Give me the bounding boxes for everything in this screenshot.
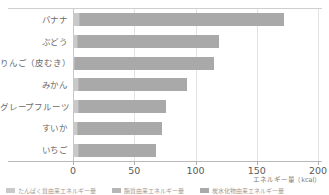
- legend-label: 脂質由来エネルギー量: [124, 187, 184, 194]
- bar-segment: [78, 35, 219, 48]
- legend-label: 炭水化物由来エネルギー量: [212, 187, 284, 194]
- category-label: ぶどう: [0, 37, 68, 47]
- tick-label: 50: [128, 165, 140, 177]
- stacked-bar[interactable]: [73, 78, 187, 91]
- bar-row[interactable]: いちご: [0, 139, 329, 161]
- category-label: みかん: [0, 80, 68, 90]
- bar-row[interactable]: すいか: [0, 118, 329, 140]
- stacked-bar[interactable]: [73, 57, 214, 70]
- stacked-bar[interactable]: [73, 35, 219, 48]
- stacked-bar[interactable]: [73, 13, 284, 26]
- stacked-bar[interactable]: [73, 122, 162, 135]
- bar-segment: [78, 122, 163, 135]
- horizontal-bar-chart: バナナぶどうりんご（皮むき）みかんグレープフルーツすいかいちご 05010015…: [0, 0, 329, 195]
- bar-segment: [75, 57, 213, 70]
- category-label: いちご: [0, 145, 68, 155]
- legend-swatch-icon: [6, 188, 15, 193]
- bar-row[interactable]: りんご（皮むき）: [0, 52, 329, 74]
- bar-row[interactable]: みかん: [0, 74, 329, 96]
- bar-segment: [79, 144, 156, 157]
- tick-label: 100: [186, 165, 204, 177]
- bar-row[interactable]: ぶどう: [0, 31, 329, 53]
- legend-item[interactable]: 炭水化物由来エネルギー量: [200, 187, 284, 194]
- category-label: りんご（皮むき）: [0, 58, 68, 68]
- stacked-bar[interactable]: [73, 144, 156, 157]
- bar-segment: [79, 78, 187, 91]
- legend-swatch-icon: [200, 188, 209, 193]
- tick-label: 0: [70, 165, 76, 177]
- bar-segment: [80, 13, 283, 26]
- category-label: グレープフルーツ: [0, 102, 68, 112]
- legend-item[interactable]: 脂質由来エネルギー量: [112, 187, 184, 194]
- x-axis-title: エネルギー量（kcal）: [253, 176, 321, 184]
- legend-swatch-icon: [112, 188, 121, 193]
- chart-legend: たんぱく質由来エネルギー量脂質由来エネルギー量炭水化物由来エネルギー量: [6, 187, 326, 195]
- legend-item[interactable]: たんぱく質由来エネルギー量: [6, 187, 96, 194]
- category-label: すいか: [0, 123, 68, 133]
- legend-label: たんぱく質由来エネルギー量: [18, 187, 96, 194]
- bar-rows: バナナぶどうりんご（皮むき）みかんグレープフルーツすいかいちご: [0, 9, 329, 161]
- bar-row[interactable]: グレープフルーツ: [0, 96, 329, 118]
- bar-row[interactable]: バナナ: [0, 9, 329, 31]
- category-label: バナナ: [0, 15, 68, 25]
- bar-segment: [79, 100, 166, 113]
- stacked-bar[interactable]: [73, 100, 166, 113]
